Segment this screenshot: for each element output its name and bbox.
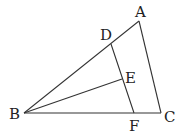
label-A: A bbox=[134, 3, 146, 21]
label-C: C bbox=[164, 108, 175, 126]
segment-AC bbox=[139, 21, 161, 113]
label-D: D bbox=[100, 26, 112, 44]
label-F: F bbox=[129, 117, 139, 135]
label-B: B bbox=[9, 105, 20, 123]
label-E: E bbox=[125, 69, 136, 87]
segment-AB bbox=[24, 21, 139, 113]
segment-BE bbox=[24, 79, 122, 113]
triangle-diagram: A B C D E F bbox=[0, 0, 187, 135]
